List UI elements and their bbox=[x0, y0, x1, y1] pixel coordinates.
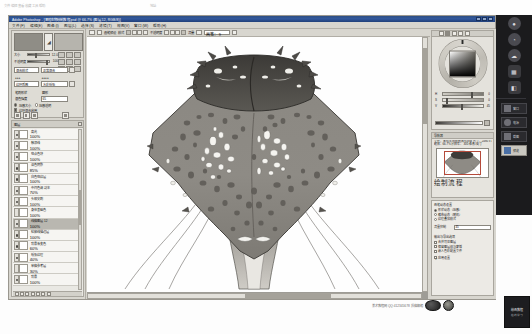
brush-size-value[interactable]: 画笔： 9 bbox=[204, 30, 230, 36]
blend-mode-field[interactable]: 正常混合 bbox=[41, 67, 68, 73]
table-row[interactable]: 头部尖刺100% bbox=[13, 196, 79, 207]
eye-icon[interactable] bbox=[14, 241, 19, 250]
background-swatch[interactable] bbox=[54, 33, 83, 51]
blend-cell-normal[interactable] bbox=[126, 30, 131, 36]
opacity-cell-50[interactable] bbox=[170, 30, 175, 36]
new-icon[interactable] bbox=[14, 112, 21, 119]
table-row[interactable]: 深色阴影85% bbox=[13, 163, 79, 174]
puzzle-icon[interactable]: ◧ bbox=[508, 81, 521, 94]
table-row[interactable]: 身体基础色100% bbox=[13, 207, 79, 218]
close-button[interactable] bbox=[488, 17, 493, 21]
fx-icon[interactable] bbox=[20, 292, 24, 296]
fx-icon[interactable] bbox=[62, 112, 69, 119]
table-row[interactable]: 触须线100% bbox=[13, 140, 79, 151]
copy-icon[interactable] bbox=[23, 112, 30, 119]
preview-button[interactable]: 预览 bbox=[501, 145, 527, 156]
mask-icon[interactable] bbox=[25, 292, 29, 296]
alpha-slider-track[interactable] bbox=[435, 121, 483, 125]
opacity-slider-track[interactable] bbox=[27, 60, 50, 63]
opacity-cell-25[interactable] bbox=[164, 30, 169, 36]
canvas-vertical-scrollbar[interactable] bbox=[422, 37, 428, 292]
eye-icon[interactable] bbox=[14, 197, 19, 206]
export-option-row[interactable]: 嵌入色彩配置文件 bbox=[434, 249, 491, 254]
table-row[interactable]: 斑点色块100% bbox=[13, 151, 79, 162]
tab-styles[interactable] bbox=[452, 31, 457, 35]
canvas-area[interactable] bbox=[87, 37, 428, 299]
delete-icon[interactable] bbox=[31, 112, 38, 119]
hue-marker[interactable] bbox=[462, 40, 464, 44]
layer-list[interactable]: 高光100%触须线100%斑点色块100%深色阴影85%白色斑纹层100%中间色… bbox=[13, 129, 79, 290]
eyedropper-icon[interactable] bbox=[484, 120, 490, 126]
saturation-value-square[interactable] bbox=[449, 50, 476, 77]
menu-filter[interactable]: 滤镜(T) bbox=[99, 23, 112, 28]
eye-icon[interactable] bbox=[14, 163, 19, 172]
new-layer-icon[interactable] bbox=[41, 292, 45, 296]
blend-cell-screen[interactable] bbox=[137, 30, 142, 36]
viewport-rect[interactable] bbox=[444, 151, 481, 176]
eye-icon[interactable] bbox=[14, 174, 19, 183]
merge-visible-checkbox-icon[interactable] bbox=[434, 241, 437, 244]
menu-help[interactable]: 帮助(H) bbox=[153, 23, 166, 28]
pad-cell[interactable] bbox=[74, 52, 81, 58]
color-wheel-icon[interactable] bbox=[438, 39, 487, 88]
chevron-down-icon[interactable] bbox=[97, 30, 103, 36]
table-row[interactable]: 高光100% bbox=[13, 129, 79, 140]
eye-icon[interactable] bbox=[14, 253, 19, 262]
group-icon[interactable] bbox=[31, 292, 35, 296]
opacity-cell-100[interactable] bbox=[181, 30, 186, 36]
table-row[interactable]: 草稿参考层30% bbox=[13, 263, 79, 274]
blend-mode-dropdown-icon[interactable] bbox=[69, 67, 75, 73]
artwork-thumbnail[interactable] bbox=[436, 148, 489, 178]
menu-window[interactable]: 窗口(W) bbox=[134, 23, 148, 28]
menu-edit[interactable]: 编辑(E) bbox=[30, 23, 43, 28]
saturation-slider-track[interactable] bbox=[442, 98, 484, 101]
table-row[interactable]: 线稿图层 12100% bbox=[13, 219, 79, 230]
ad-card[interactable]: 绘画教程 在线学习 bbox=[504, 296, 530, 328]
scatter-dynamics-radio-icon[interactable] bbox=[434, 213, 437, 216]
window-button[interactable]: 窗口 bbox=[501, 103, 527, 114]
menu-image[interactable]: 图像(I) bbox=[47, 23, 58, 28]
grid-icon[interactable]: ▦ bbox=[508, 65, 521, 78]
tablet-pressure-icon[interactable] bbox=[232, 30, 238, 36]
eyedropper-icon[interactable]: ◢ bbox=[44, 33, 53, 51]
eye-icon[interactable] bbox=[14, 275, 19, 284]
pressure-opacity-radio-icon[interactable] bbox=[35, 103, 38, 106]
eye-icon[interactable] bbox=[14, 230, 19, 239]
apply-settings-checkbox-icon[interactable]: ✓ bbox=[434, 256, 437, 259]
eye-icon[interactable] bbox=[14, 264, 19, 273]
eye-icon[interactable] bbox=[14, 141, 19, 150]
opacity-cell-75[interactable] bbox=[175, 30, 180, 36]
eye-icon[interactable] bbox=[14, 130, 19, 139]
table-row[interactable]: 中间色调 副本70% bbox=[13, 185, 79, 196]
pad-cell[interactable] bbox=[58, 59, 65, 65]
close-icon[interactable] bbox=[78, 122, 82, 126]
power-button[interactable]: 电源 bbox=[501, 117, 527, 128]
airbrush-icon[interactable] bbox=[196, 30, 202, 36]
artwork-canvas[interactable] bbox=[87, 37, 422, 292]
pad-cell[interactable] bbox=[66, 59, 73, 65]
layers-scrollbar[interactable] bbox=[78, 129, 82, 290]
adjust-icon[interactable] bbox=[36, 292, 40, 296]
embed-profile-checkbox-icon[interactable] bbox=[434, 250, 437, 253]
texture-dropdown-icon[interactable] bbox=[69, 81, 75, 87]
eye-icon[interactable] bbox=[14, 219, 19, 228]
table-row[interactable]: 背景渐变色60% bbox=[13, 241, 79, 252]
eye-icon[interactable] bbox=[14, 152, 19, 161]
table-row[interactable]: 背景100% bbox=[13, 274, 79, 285]
eye-icon[interactable] bbox=[14, 208, 19, 217]
maximize-button[interactable] bbox=[482, 17, 487, 21]
texture-field[interactable]: 水彩纸张 bbox=[41, 81, 68, 87]
canvas-horizontal-scrollbar[interactable] bbox=[87, 293, 422, 299]
blend-cell-overlay[interactable] bbox=[143, 30, 148, 36]
link-icon[interactable] bbox=[15, 292, 19, 296]
foreground-swatch[interactable] bbox=[14, 33, 43, 51]
scrollbar-thumb[interactable] bbox=[79, 190, 80, 225]
flow-field-input[interactable]: 45 bbox=[454, 225, 492, 230]
mix-strength-field[interactable]: 65 bbox=[41, 96, 68, 102]
size-slider-track[interactable] bbox=[27, 53, 50, 56]
globe-icon[interactable]: ● bbox=[508, 17, 521, 30]
tab-history[interactable] bbox=[458, 31, 463, 35]
shape-dynamics-radio-icon[interactable] bbox=[434, 209, 437, 212]
table-row[interactable]: 轮廓线描边层100% bbox=[13, 230, 79, 241]
pad-cell[interactable] bbox=[74, 59, 81, 65]
